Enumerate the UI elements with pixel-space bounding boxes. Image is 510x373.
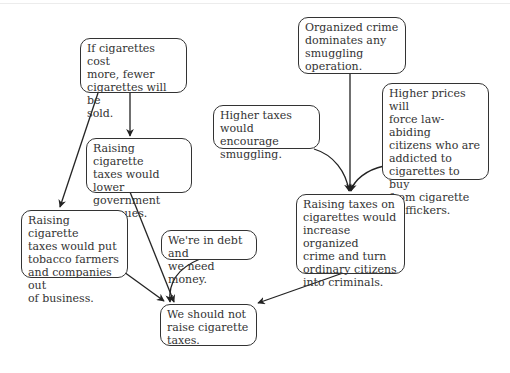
- edge-g-i: [314, 149, 349, 191]
- node-increase-organized-crime: Raising taxes on cigarettes would increa…: [296, 194, 405, 274]
- node-text: Higher taxes would encourage smuggling.: [220, 109, 313, 161]
- node-organized-crime-dominates: Organized crime dominates any smuggling …: [298, 17, 406, 74]
- node-text: Raising taxes on cigarettes would increa…: [303, 198, 398, 289]
- node-text: We should not raise cigarette taxes.: [167, 308, 250, 347]
- node-text: If cigarettes cost more, fewer cigarette…: [87, 42, 180, 120]
- node-text: Organized crime dominates any smuggling …: [305, 21, 399, 73]
- node-text: Raising cigarette taxes would put tobacc…: [28, 214, 121, 305]
- node-higher-prices-force-citizens: Higher prices will force law-abiding cit…: [382, 83, 489, 180]
- node-in-debt-need-money: We're in debt and we need money.: [161, 230, 257, 260]
- edge-h-i: [351, 166, 384, 191]
- node-lower-government-revenues: Raising cigarette taxes would lower gove…: [86, 138, 192, 193]
- node-conclusion-should-not-raise-taxes: We should not raise cigarette taxes.: [160, 304, 257, 346]
- edge-c-e: [124, 272, 164, 301]
- node-cigarettes-cost-more: If cigarettes cost more, fewer cigarette…: [80, 38, 187, 93]
- node-tobacco-farmers-out-of-business: Raising cigarette taxes would put tobacc…: [21, 210, 128, 278]
- node-text: Raising cigarette taxes would lower gove…: [93, 142, 185, 220]
- node-text: We're in debt and we need money.: [168, 234, 250, 286]
- node-encourage-smuggling: Higher taxes would encourage smuggling.: [213, 105, 320, 149]
